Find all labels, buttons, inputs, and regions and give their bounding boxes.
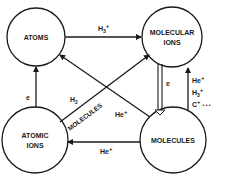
edge-label-h3plus: H3+ [98, 23, 110, 34]
edge-atoms-to-molecular-ions: H3+ [65, 23, 141, 37]
edge-atomic-ions-to-molecular-ions: H2 MOLECULES [60, 55, 149, 132]
edge-label-e-left: e [26, 94, 30, 101]
node-atoms-label: ATOMS [24, 34, 49, 41]
edge-label-heplus-diag: He+ [115, 109, 128, 118]
node-molecules-label: MOLECULES [151, 137, 195, 144]
edge-label-cplus: C+• • • [192, 99, 211, 108]
edge-atomic-ions-to-atoms: e [26, 67, 36, 107]
edge-molecules-to-atomic-ions: He+ [68, 142, 140, 155]
node-molecular-ions: MOLECULAR IONS [142, 7, 202, 67]
edge-label-heplus-right: He+ [192, 75, 205, 84]
node-atomic-ions-label-1: ATOMIC [22, 132, 49, 139]
edge-label-molecules-diag: MOLECULES [66, 101, 103, 132]
edge-label-h2: H2 [70, 96, 78, 105]
node-atomic-ions-label-2: IONS [26, 142, 43, 149]
edge-label-heplus-bottom: He+ [100, 146, 113, 155]
reaction-network-diagram: ATOMS MOLECULAR IONS ATOMIC IONS MOLECUL… [0, 0, 227, 178]
node-molecular-ions-label-2: IONS [163, 39, 180, 46]
edge-molecules-to-molecular-ions: He+ H3+ C+• • • [188, 68, 211, 111]
edge-label-h3plus-right: H3+ [192, 87, 204, 98]
node-atoms: ATOMS [7, 8, 65, 66]
node-atomic-ions: ATOMIC IONS [2, 107, 68, 173]
edge-label-e-right: e [166, 80, 170, 87]
node-molecular-ions-label-1: MOLECULAR [150, 29, 195, 36]
